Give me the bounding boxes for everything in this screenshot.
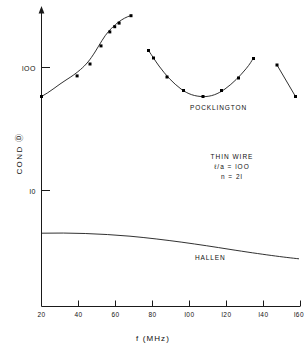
- x-tick-label-140: l40: [258, 311, 268, 318]
- data-point: [130, 14, 133, 17]
- data-point: [118, 22, 121, 25]
- pocklington-curve-branch-3: [277, 65, 296, 97]
- data-point: [237, 77, 240, 80]
- data-point: [166, 76, 169, 79]
- data-point: [147, 49, 150, 52]
- data-point: [202, 95, 205, 98]
- data-point: [182, 89, 185, 92]
- y-axis-arrowhead: [39, 6, 45, 14]
- pocklington-curve-branch-1: [42, 16, 132, 97]
- y-axis-ticks: [42, 68, 51, 191]
- data-point: [89, 63, 92, 66]
- y-axis-label: COND Ⓓ: [13, 124, 24, 184]
- x-tick-label-100: l00: [184, 311, 194, 318]
- data-point: [152, 57, 155, 60]
- x-tick-label-80: 80: [148, 311, 156, 318]
- data-point: [100, 44, 103, 47]
- pocklington-series-label: POCKLINGTON: [190, 104, 247, 111]
- data-point: [220, 89, 223, 92]
- x-axis-ticks: [42, 301, 301, 307]
- x-tick-label-20: 20: [37, 311, 45, 318]
- data-point: [40, 95, 43, 98]
- pocklington-curve-branch-2: [149, 51, 254, 97]
- length-to-radius-ratio: ℓ/a = lOO: [193, 162, 271, 172]
- thin-wire-title: THIN WIRE: [193, 152, 271, 162]
- pocklington-data-markers-branch-1: [40, 14, 133, 98]
- data-point: [76, 74, 79, 77]
- data-point: [294, 95, 297, 98]
- x-tick-label-120: l20: [221, 311, 231, 318]
- thin-wire-parameters-annotation: THIN WIRE ℓ/a = lOO n = 2l: [193, 152, 271, 182]
- data-point: [113, 25, 116, 28]
- hallen-series-label: HALLEN: [195, 254, 226, 261]
- y-tick-label-100: lOO: [14, 64, 36, 71]
- segment-count: n = 2l: [193, 172, 271, 182]
- hallen-curve: [42, 233, 299, 259]
- data-point: [108, 30, 111, 33]
- data-point: [252, 57, 255, 60]
- x-axis-label: f (MHz): [0, 334, 306, 343]
- x-tick-label-60: 60: [111, 311, 119, 318]
- x-tick-label-40: 40: [74, 311, 82, 318]
- y-tick-label-10: l0: [14, 187, 36, 194]
- data-point: [276, 64, 279, 67]
- x-tick-label-160: l60: [294, 311, 304, 318]
- pocklington-data-markers-branch-2: [147, 49, 255, 98]
